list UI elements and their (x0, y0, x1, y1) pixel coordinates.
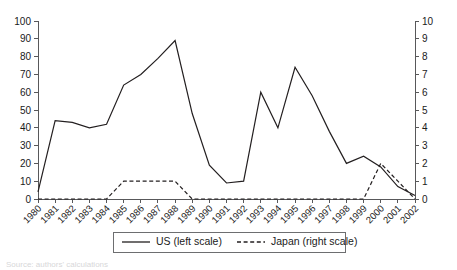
y-axis-right-tick-label: 0 (422, 194, 428, 205)
y-axis-left-tick-label: 50 (20, 105, 32, 116)
y-axis-left-tick-label: 20 (20, 158, 32, 169)
x-axis-tick-label: 1992 (226, 203, 249, 226)
y-axis-right-tick-label: 7 (422, 69, 428, 80)
y-axis-left-tick-label: 40 (20, 122, 32, 133)
x-axis-tick-label: 1994 (261, 203, 284, 226)
chart-legend: US (left scale)Japan (right scale) (113, 232, 357, 252)
y-axis-right-tick-label: 4 (422, 122, 428, 133)
dual-axis-line-chart: 0102030405060708090100 012345678910 1980… (0, 0, 457, 270)
y-axis-right-tick-label: 10 (422, 16, 434, 27)
y-axis-right-tick-label: 5 (422, 105, 428, 116)
legend-label-us: US (left scale) (156, 235, 222, 247)
y-axis-left-tick-label: 0 (25, 194, 31, 205)
x-axis-tick-label: 1983 (72, 203, 95, 226)
y-axis-right-ticks: 012345678910 (415, 16, 434, 205)
x-axis-tick-label: 1981 (38, 203, 61, 226)
y-axis-right-tick-label: 3 (422, 140, 428, 151)
y-axis-left-tick-label: 80 (20, 51, 32, 62)
x-axis-tick-label: 1986 (124, 203, 147, 226)
x-axis-tick-label: 1980 (21, 203, 44, 226)
y-axis-left-tick-label: 60 (20, 87, 32, 98)
x-axis-tick-label: 1990 (192, 203, 215, 226)
x-axis-tick-label: 2000 (363, 203, 386, 226)
x-axis-tick-label: 1991 (209, 203, 232, 226)
y-axis-left-tick-label: 100 (14, 16, 31, 27)
x-axis-tick-label: 1996 (295, 203, 318, 226)
x-axis-tick-label: 2001 (381, 203, 404, 226)
x-axis-tick-label: 1982 (55, 203, 78, 226)
y-axis-right-tick-label: 6 (422, 87, 428, 98)
chart-container: 0102030405060708090100 012345678910 1980… (0, 0, 457, 270)
x-axis-tick-label: 1985 (106, 203, 129, 226)
y-axis-left-tick-label: 70 (20, 69, 32, 80)
x-axis-tick-label: 1988 (158, 203, 181, 226)
y-axis-right-tick-label: 8 (422, 51, 428, 62)
y-axis-left-tick-label: 30 (20, 140, 32, 151)
plot-series (38, 41, 415, 199)
x-axis-tick-label: 1999 (346, 203, 369, 226)
legend-label-japan: Japan (right scale) (271, 235, 357, 247)
x-axis-tick-label: 1998 (329, 203, 352, 226)
chart-caption: Source: authors' calculations (0, 260, 457, 270)
x-axis-tick-label: 1984 (89, 203, 112, 226)
x-axis-tick-labels: 1980198119821983198419851986198719881989… (21, 203, 421, 226)
x-axis-tick-label: 1993 (243, 203, 266, 226)
x-axis-tick-label: 1997 (312, 203, 335, 226)
y-axis-left-tick-label: 10 (20, 176, 32, 187)
y-axis-right-tick-label: 1 (422, 176, 428, 187)
y-axis-right-tick-label: 2 (422, 158, 428, 169)
x-axis-tick-label: 1995 (278, 203, 301, 226)
y-axis-left-ticks: 0102030405060708090100 (14, 16, 38, 205)
x-axis-tick-label: 1987 (141, 203, 164, 226)
x-axis-tick-label: 1989 (175, 203, 198, 226)
y-axis-right-tick-label: 9 (422, 33, 428, 44)
y-axis-left: 0102030405060708090100 (14, 16, 38, 205)
series-line-us (38, 41, 415, 196)
x-axis-tick-label: 2002 (398, 203, 421, 226)
y-axis-right: 012345678910 (415, 16, 434, 205)
x-axis: 1980198119821983198419851986198719881989… (21, 199, 421, 225)
series-line-japan (38, 163, 415, 199)
y-axis-left-tick-label: 90 (20, 33, 32, 44)
